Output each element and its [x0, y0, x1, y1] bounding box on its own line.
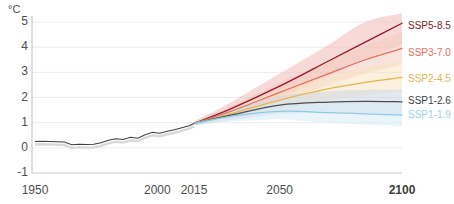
- y-axis-tick-0: 0: [2, 140, 28, 154]
- y-axis-tick-neg1: -1: [2, 165, 28, 179]
- legend-item-ssp1-1.9[interactable]: SSP1-1.9: [408, 109, 451, 120]
- y-axis-tick-3: 3: [2, 64, 28, 78]
- y-axis-tick-1: 1: [2, 115, 28, 129]
- legend-item-ssp5-8.5[interactable]: SSP5-8.5: [408, 20, 451, 31]
- x-axis-tick-2100: 2100: [379, 183, 425, 197]
- legend-item-ssp2-4.5[interactable]: SSP2-4.5: [408, 73, 451, 84]
- x-axis-tick-1950: 1950: [12, 183, 58, 197]
- historical-line-group: [35, 123, 194, 147]
- x-axis-tick-2050: 2050: [257, 183, 303, 197]
- legend-item-ssp1-2.6[interactable]: SSP1-2.6: [408, 95, 451, 106]
- y-axis-tick-2: 2: [2, 90, 28, 104]
- chart-plot-area: [0, 0, 454, 204]
- y-axis-tick-4: 4: [2, 39, 28, 53]
- uncertainty-bands-group: [194, 13, 402, 126]
- legend-item-ssp3-7.0[interactable]: SSP3-7.0: [408, 47, 451, 58]
- x-axis-tick-2015: 2015: [171, 183, 217, 197]
- climate-projection-chart: °C 543210-1 19502000201520502100 SSP5-8.…: [0, 0, 454, 204]
- y-axis-tick-5: 5: [2, 14, 28, 28]
